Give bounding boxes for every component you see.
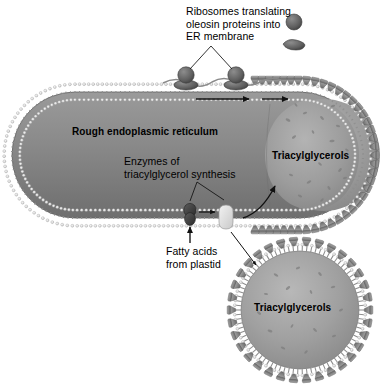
label-ribosomes: Ribosomes translating oleosin proteins i… <box>186 5 291 43</box>
oleosin-protein <box>364 306 372 314</box>
enzyme-light <box>219 205 233 229</box>
label-enzymes: Enzymes of triacylglycerol synthesis <box>124 155 236 180</box>
oleosin-protein <box>227 306 235 314</box>
label-triacylglycerols-bottom: Triacylglycerols <box>254 302 331 315</box>
figure-canvas: Ribosomes translating oleosin proteins i… <box>0 0 381 391</box>
label-fatty-acids: Fatty acids from plastid <box>166 245 221 270</box>
ribosome-large-subunit <box>228 67 244 83</box>
oleosin-protein <box>294 76 302 84</box>
ribosome-1 <box>174 67 198 90</box>
oleosin-protein <box>287 226 295 234</box>
oleosin-protein <box>280 76 288 84</box>
oleosin-protein <box>251 226 259 234</box>
ribosome-leader-lines <box>190 46 232 69</box>
arrow-oil-body-release <box>231 232 256 265</box>
enzyme-dark <box>184 203 196 225</box>
label-triacylglycerols-top: Triacylglycerols <box>272 150 349 163</box>
oleosin-protein <box>318 79 328 89</box>
ribosome-large-subunit <box>178 67 194 83</box>
label-rough-er: Rough endoplasmic reticulum <box>72 126 218 139</box>
diagram-illustration <box>0 0 381 391</box>
